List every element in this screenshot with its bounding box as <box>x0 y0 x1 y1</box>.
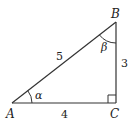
side-length-ab: 5 <box>56 50 63 63</box>
triangle-diagram: A B C 5 4 3 α β <box>0 0 132 127</box>
side-ab <box>12 22 116 103</box>
vertex-label-b: B <box>110 7 120 21</box>
right-angle-marker <box>108 95 116 103</box>
side-length-bc: 3 <box>121 57 128 70</box>
angle-label-alpha: α <box>35 89 43 102</box>
angle-arc-alpha <box>28 91 32 103</box>
vertex-label-a: A <box>5 107 15 121</box>
angle-label-beta: β <box>100 41 107 54</box>
vertex-label-c: C <box>110 107 119 121</box>
side-length-ac: 4 <box>61 108 68 121</box>
